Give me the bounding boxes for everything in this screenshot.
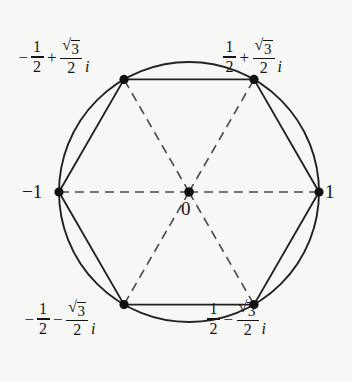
- radical-sqrt3: √ 3: [68, 300, 86, 319]
- fraction-sqrt3-over-2: √ 3 2: [66, 300, 88, 338]
- radical-sqrt3: √ 3: [255, 38, 273, 57]
- operator-plus: +: [45, 49, 60, 66]
- fraction-sqrt3-over-2: √ 3 2: [253, 38, 275, 76]
- vertex-label-top-left: − 1 2 + √ 3 2 i: [16, 38, 89, 76]
- fraction-one-half: 1 2: [223, 39, 236, 75]
- vertex-label-minus-one: −1: [22, 182, 42, 201]
- radius-to-bottom-left: [124, 192, 189, 305]
- vertex-label-one: 1: [325, 182, 335, 201]
- fraction-sqrt3-over-2: √ 3 2: [237, 300, 259, 338]
- radical-sqrt3: √ 3: [62, 38, 80, 57]
- imaginary-unit: i: [83, 59, 89, 76]
- operator-minus: −: [221, 311, 236, 328]
- fraction-sqrt3-over-2: √ 3 2: [60, 38, 82, 76]
- fraction-one-half: 1 2: [37, 301, 50, 337]
- imaginary-unit: i: [260, 321, 266, 338]
- fraction-one-half: 1 2: [31, 39, 44, 75]
- vertex-label-top-right: 1 2 + √ 3 2 i: [222, 38, 282, 76]
- radius-to-top-left: [124, 79, 189, 192]
- sign-negative: −: [22, 311, 36, 328]
- fraction-one-half: 1 2: [207, 301, 220, 337]
- operator-plus: +: [237, 49, 252, 66]
- origin-label-zero: 0: [181, 199, 191, 218]
- radius-to-top-right: [189, 79, 254, 192]
- vertex-dot-top-right: [249, 75, 258, 84]
- vertex-label-bottom-left: − 1 2 − √ 3 2 i: [22, 300, 95, 338]
- operator-minus: −: [51, 311, 66, 328]
- radical-sqrt3: √ 3: [239, 300, 257, 319]
- vertex-dot-1: [314, 187, 323, 196]
- sign-negative: −: [16, 49, 30, 66]
- imaginary-unit: i: [89, 321, 95, 338]
- origin-dot: [184, 187, 194, 197]
- vertex-dot-bottom-left: [119, 300, 128, 309]
- vertex-dot-top-left: [119, 75, 128, 84]
- radius-to-bottom-right: [189, 192, 254, 305]
- vertex-label-bottom-right: 1 2 − √ 3 2 i: [206, 300, 266, 338]
- figure-canvas: − 1 2 + √ 3 2 i 1: [0, 0, 352, 381]
- vertex-dot-minus-1: [54, 187, 63, 196]
- imaginary-unit: i: [276, 59, 282, 76]
